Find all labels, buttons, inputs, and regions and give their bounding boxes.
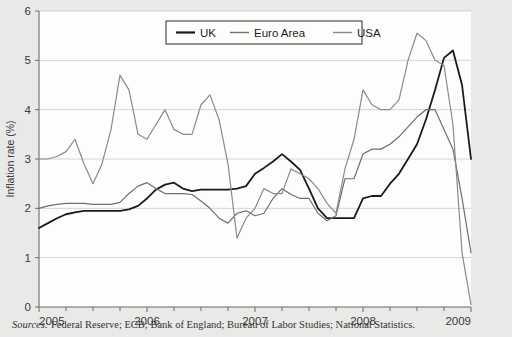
y-axis-tick-label: 5: [25, 54, 31, 66]
inflation-rate-chart-figure: 012345620052006200720082009Inflation rat…: [0, 0, 512, 337]
legend-label-euro-area: Euro Area: [254, 27, 306, 39]
y-axis-tick-label: 2: [25, 202, 31, 214]
legend-label-uk: UK: [200, 27, 216, 39]
y-axis-tick-label: 6: [25, 5, 31, 17]
chart-canvas: 012345620052006200720082009Inflation rat…: [0, 0, 512, 337]
y-axis-title: Inflation rate (%): [4, 120, 16, 197]
y-axis-tick-label: 3: [25, 153, 31, 165]
source-note-label: Sources:: [12, 319, 48, 330]
y-axis-tick-label: 4: [25, 104, 32, 116]
y-axis-tick-label: 0: [25, 301, 31, 313]
x-axis-tick-label: 2009: [445, 315, 471, 327]
source-note: Sources: Federal Reserve; ECB; Bank of E…: [12, 319, 415, 330]
y-axis-tick-label: 1: [25, 252, 31, 264]
source-note-text: Federal Reserve; ECB; Bank of England; B…: [48, 319, 415, 330]
legend-label-usa: USA: [357, 27, 381, 39]
